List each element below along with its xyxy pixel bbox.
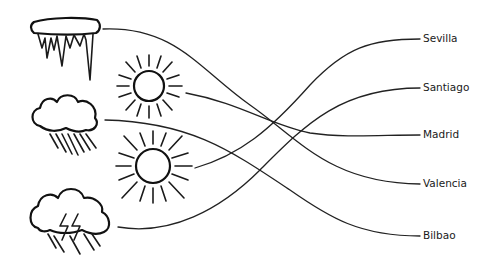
city-label-valencia: Valencia	[423, 177, 467, 189]
city-label-madrid: Madrid	[423, 128, 459, 140]
icicles-icon	[31, 18, 100, 80]
city-label-bilbao: Bilbao	[423, 229, 456, 241]
sun-icon	[117, 55, 182, 118]
city-label-santiago: Santiago	[423, 81, 469, 93]
line-icicles-valencia	[103, 29, 420, 184]
line-storm-santiago	[118, 88, 420, 229]
storm-cloud-icon	[31, 189, 110, 254]
sun-icon	[116, 131, 192, 203]
rain-cloud-icon	[33, 95, 97, 155]
matching-diagram: Sevilla Santiago Madrid Valencia Bilbao	[0, 0, 502, 261]
city-label-sevilla: Sevilla	[423, 32, 458, 44]
